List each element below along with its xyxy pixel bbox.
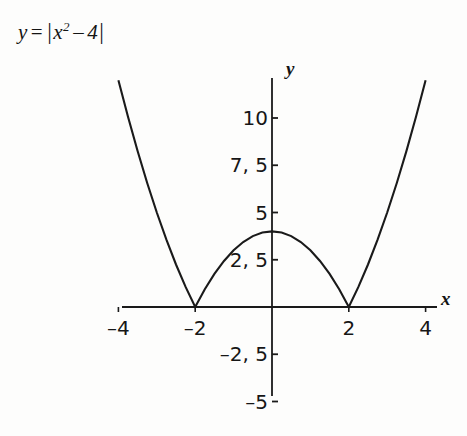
y-tick-label: –5 bbox=[245, 390, 268, 414]
x-tick-label: 4 bbox=[419, 316, 432, 340]
y-tick-label: 5 bbox=[255, 201, 268, 225]
x-tick-label: –4 bbox=[107, 316, 130, 340]
plot-area bbox=[0, 0, 467, 436]
x-tick-label: –2 bbox=[184, 316, 207, 340]
y-tick-label: 2, 5 bbox=[230, 248, 268, 272]
figure-canvas: y=|x2–4| y x 107, 552, 5–2, 5–5–4–224 bbox=[0, 0, 467, 436]
y-tick-label: –2, 5 bbox=[220, 342, 268, 366]
x-tick-label: 2 bbox=[342, 316, 355, 340]
y-tick-label: 10 bbox=[243, 106, 268, 130]
y-axis-label: y bbox=[286, 58, 294, 80]
y-tick-label: 7, 5 bbox=[230, 153, 268, 177]
x-axis-label: x bbox=[441, 288, 451, 310]
